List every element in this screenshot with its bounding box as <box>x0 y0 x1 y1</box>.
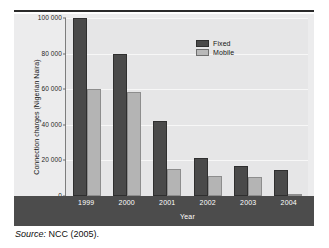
plot-area: 020 00040 00060 00080 000100 000 <box>65 18 308 196</box>
bar-fixed-1999 <box>73 18 87 196</box>
bar-mobile-2000 <box>127 92 141 196</box>
x-axis-tick-labels: 199920002001200220032004 <box>66 199 309 207</box>
bars-layer <box>67 18 308 196</box>
source-value: NCC (2005). <box>46 229 99 239</box>
x-axis-band: 199920002001200220032004 Year <box>14 196 314 226</box>
x-tick-label-2004: 2004 <box>269 199 310 207</box>
y-tick-label-80000: 80 000 <box>42 50 62 57</box>
y-tick-mark-40000 <box>63 124 66 125</box>
bar-group-2001 <box>147 18 187 196</box>
legend-swatch-mobile-icon <box>196 49 209 56</box>
y-tick-mark-60000 <box>63 89 66 90</box>
bar-fixed-2003 <box>234 166 248 196</box>
bar-mobile-2003 <box>248 177 262 196</box>
bar-fixed-2004 <box>274 170 288 196</box>
source-caption: Source: NCC (2005). <box>15 230 99 239</box>
bar-group-2000 <box>107 18 147 196</box>
bar-mobile-2001 <box>167 169 181 196</box>
bar-fixed-2002 <box>194 158 208 196</box>
y-tick-mark-100000 <box>63 18 66 19</box>
chart-panel: Connection charges (Nigerian Naira) 020 … <box>14 14 314 212</box>
y-tick-mark-20000 <box>63 160 66 161</box>
chart-legend: Fixed Mobile <box>196 40 234 56</box>
bar-mobile-2002 <box>208 176 222 196</box>
x-tick-label-2000: 2000 <box>107 199 148 207</box>
bar-fixed-2001 <box>153 121 167 196</box>
legend-item-fixed: Fixed <box>196 40 234 47</box>
bar-group-2004 <box>268 18 308 196</box>
x-axis-title: Year <box>66 213 309 221</box>
legend-label-fixed: Fixed <box>213 40 231 47</box>
bar-group-1999 <box>67 18 107 196</box>
y-tick-label-40000: 40 000 <box>42 122 62 129</box>
y-tick-label-100000: 100 000 <box>38 15 62 22</box>
figure-container: Connection charges (Nigerian Naira) 020 … <box>0 0 329 248</box>
legend-label-mobile: Mobile <box>213 49 234 56</box>
x-tick-label-2003: 2003 <box>228 199 269 207</box>
top-rule-divider <box>14 10 314 12</box>
bar-mobile-1999 <box>87 89 101 196</box>
bar-fixed-2000 <box>113 54 127 196</box>
legend-swatch-fixed-icon <box>196 40 209 47</box>
x-tick-label-2002: 2002 <box>188 199 229 207</box>
x-tick-label-2001: 2001 <box>147 199 188 207</box>
x-tick-label-1999: 1999 <box>66 199 107 207</box>
y-tick-mark-80000 <box>63 53 66 54</box>
y-tick-label-60000: 60 000 <box>42 86 62 93</box>
legend-item-mobile: Mobile <box>196 49 234 56</box>
source-label: Source: <box>15 229 46 239</box>
y-tick-label-20000: 20 000 <box>42 157 62 164</box>
